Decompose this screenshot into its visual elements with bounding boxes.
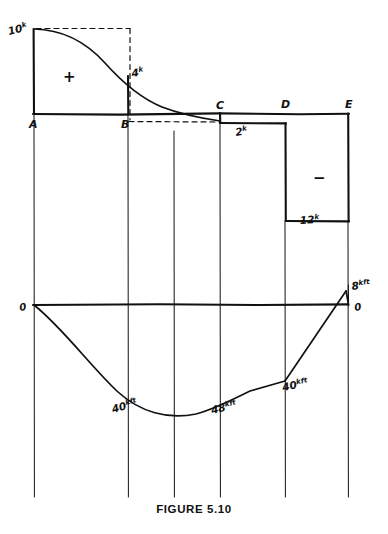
figure-caption: FIGURE 5.10 [0, 503, 388, 515]
shear-point-label-e: E [345, 98, 353, 111]
shear-point-label-d: D [281, 98, 290, 111]
shear-point-label-a: A [28, 118, 38, 131]
shear-positive-sign: + [63, 68, 76, 86]
shear-curve-a-to-c [34, 29, 220, 121]
shear-negative-sign: − [313, 169, 326, 187]
shear-value-10k: 10k [7, 20, 30, 37]
moment-value-40kft-right: 40kft [280, 376, 309, 393]
moment-value-left-zero: 0 [18, 301, 27, 313]
moment-curve [34, 305, 285, 416]
moment-value-8kft: 8kft [351, 278, 371, 292]
moment-value-right-zero: 0 [353, 301, 362, 313]
moment-value-40kft-left: 40kft [109, 396, 139, 415]
shear-diagram-group [33, 29, 349, 222]
shear-value-12k: 12k [299, 213, 320, 226]
shear-value-2k: 2k [234, 124, 249, 138]
shear-baseline [33, 113, 349, 114]
shear-value-4k: 4k [130, 65, 146, 79]
shear-point-label-c: C [216, 99, 224, 112]
figure-container: 10k 4k 2k 12k A B C D E + − 0 0 8kft [0, 0, 388, 534]
moment-diagram-group [33, 285, 349, 416]
shear-dashed-bottom [129, 122, 219, 123]
figure-drawing: 10k 4k 2k 12k A B C D E + − 0 0 8kft [0, 0, 388, 534]
shear-point-label-b: B [121, 118, 129, 131]
moment-baseline [33, 304, 348, 305]
moment-value-48kft-mid: 48kft [209, 398, 238, 416]
